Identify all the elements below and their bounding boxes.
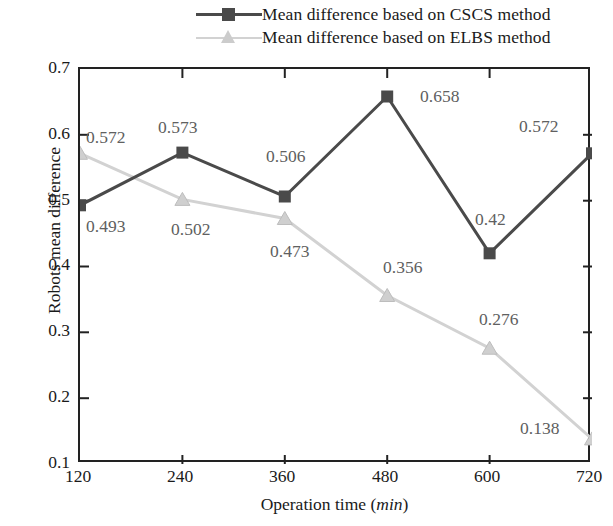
data-point-marker xyxy=(80,146,88,159)
legend-item-cscs: Mean difference based on CSCS method xyxy=(196,3,551,25)
legend-label-elbs: Mean difference based on ELBS method xyxy=(262,27,551,47)
series-cscs xyxy=(80,91,592,260)
data-label-elbs: 0.138 xyxy=(520,420,559,437)
y-tick-label: 0.7 xyxy=(8,59,70,76)
x-axis-title: Operation time (min) xyxy=(78,494,591,515)
plot-canvas xyxy=(80,69,592,464)
data-label-cscs: 0.658 xyxy=(420,88,459,105)
data-point-marker xyxy=(381,91,393,103)
y-tick-label: 0.2 xyxy=(8,388,70,405)
data-point-marker xyxy=(482,341,497,354)
x-axis-title-close: ) xyxy=(403,494,409,514)
x-tick-label: 600 xyxy=(452,468,522,485)
x-tick-label: 720 xyxy=(554,468,613,485)
data-label-cscs: 0.573 xyxy=(158,119,197,136)
data-label-elbs: 0.502 xyxy=(171,221,210,238)
square-marker-icon xyxy=(196,4,262,24)
triangle-marker-icon xyxy=(196,27,262,47)
chart-legend: Mean difference based on CSCS method Mea… xyxy=(196,2,606,50)
data-point-marker xyxy=(484,247,496,259)
x-tick-label: 360 xyxy=(247,468,317,485)
data-label-elbs: 0.473 xyxy=(270,243,309,260)
chart-figure: Mean difference based on CSCS method Mea… xyxy=(0,0,613,526)
data-label-cscs: 0.506 xyxy=(266,148,305,165)
plot-area xyxy=(78,67,590,462)
y-tick-label: 0.3 xyxy=(8,322,70,339)
y-tick-label: 0.4 xyxy=(8,256,70,273)
data-label-elbs: 0.356 xyxy=(383,259,422,276)
y-axis-ticks xyxy=(80,135,592,398)
data-point-marker xyxy=(176,147,188,159)
x-axis-title-unit: min xyxy=(376,494,402,514)
legend-label-cscs: Mean difference based on CSCS method xyxy=(262,4,551,24)
x-tick-label: 120 xyxy=(43,468,113,485)
x-tick-label: 480 xyxy=(350,468,420,485)
legend-item-elbs: Mean difference based on ELBS method xyxy=(196,26,551,48)
x-axis-title-text: Operation time ( xyxy=(261,494,377,514)
y-tick-label: 0.5 xyxy=(8,191,70,208)
data-label-cscs: 0.493 xyxy=(86,218,125,235)
x-axis-ticks xyxy=(182,69,489,464)
data-label-cscs: 0.572 xyxy=(519,118,558,135)
data-label-cscs: 0.42 xyxy=(475,211,506,228)
x-tick-label: 240 xyxy=(145,468,215,485)
data-point-marker xyxy=(279,191,291,203)
data-label-elbs: 0.572 xyxy=(86,129,125,146)
data-point-marker xyxy=(80,199,86,211)
data-point-marker xyxy=(586,147,592,159)
y-tick-label: 0.6 xyxy=(8,125,70,142)
series-elbs xyxy=(80,146,592,445)
data-label-elbs: 0.276 xyxy=(479,311,518,328)
